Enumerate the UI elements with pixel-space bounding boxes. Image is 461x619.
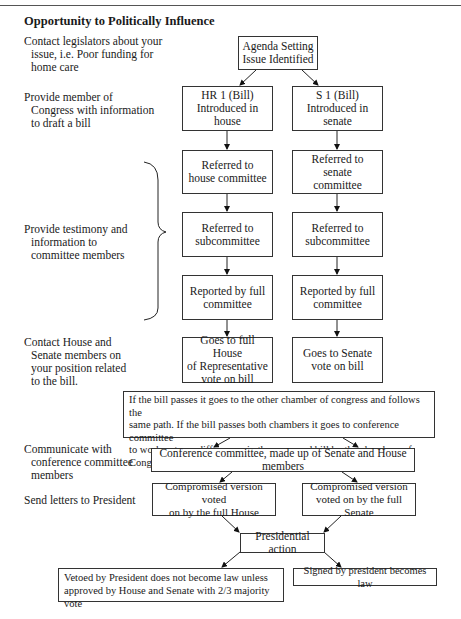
box-line: Conference committee, made up of Senate … — [155, 447, 411, 473]
box-line: Reported by full — [190, 285, 265, 298]
box-line: voted on by the full Senate — [306, 493, 412, 519]
box-line: HR 1 (Bill) — [201, 89, 253, 102]
box-line: Introduced in — [197, 102, 259, 115]
box-line: Referred to — [201, 222, 253, 235]
box-line: committee — [313, 298, 362, 311]
box-senate-introduced: S 1 (Bill) Introduced in senate — [292, 86, 383, 131]
box-compromise-house: Compromised version voted on by the full… — [152, 483, 276, 516]
box-vetoed: Vetoed by President does not become law … — [58, 568, 284, 602]
box-line: Reported by full — [300, 285, 375, 298]
brace-icon — [144, 162, 166, 320]
box-line: on by the full House — [169, 506, 259, 519]
box-line: Presidential action — [244, 530, 321, 556]
box-line: Signed by president becomes law — [297, 564, 433, 590]
box-line: Referred to — [201, 159, 253, 172]
box-line: of Representative — [187, 360, 268, 373]
box-line: house committee — [188, 172, 266, 185]
box-conference-committee: Conference committee, made up of Senate … — [151, 448, 415, 472]
box-line: Vetoed by President does not become law … — [64, 571, 268, 584]
box-senate-vote: Goes to Senate vote on bill — [292, 337, 383, 383]
box-line: senate — [323, 166, 352, 179]
box-line: S 1 (Bill) — [316, 89, 359, 102]
box-line: Referred to — [311, 222, 363, 235]
box-line: Goes to Senate — [303, 347, 372, 360]
box-line: Goes to full House — [186, 334, 269, 360]
box-senate-committee: Referred to senate committee — [292, 150, 383, 194]
box-house-introduced: HR 1 (Bill) Introduced in house — [182, 86, 273, 131]
box-compromise-senate: Compromised version voted on by the full… — [302, 483, 416, 516]
box-line: If the bill passes it goes to the other … — [129, 394, 429, 419]
box-line: subcommittee — [195, 235, 260, 248]
box-signed: Signed by president becomes law — [293, 568, 437, 586]
box-agenda-setting: Agenda Setting Issue Identified — [238, 36, 318, 70]
box-line: Introduced in — [307, 102, 369, 115]
box-presidential-action: Presidential action — [240, 533, 325, 553]
box-line: senate — [323, 115, 352, 128]
box-house-subcommittee: Referred to subcommittee — [182, 212, 273, 257]
box-line: Agenda Setting — [242, 40, 313, 53]
box-line: Compromised version — [310, 480, 407, 493]
box-house-vote: Goes to full House of Representative vot… — [182, 337, 273, 383]
box-house-committee: Referred to house committee — [182, 150, 273, 194]
box-house-reported: Reported by full committee — [182, 275, 273, 320]
box-line: committee — [313, 179, 362, 192]
box-line: same path. If the bill passes both chamb… — [129, 419, 429, 444]
box-line: subcommittee — [305, 235, 370, 248]
box-senate-subcommittee: Referred to subcommittee — [292, 212, 383, 257]
box-line: approved by House and Senate with 2/3 ma… — [64, 584, 278, 610]
box-line: Compromised version voted — [156, 480, 272, 506]
box-line: house — [214, 115, 241, 128]
box-passes-note: If the bill passes it goes to the other … — [123, 391, 435, 438]
box-line: vote on bill — [201, 373, 253, 386]
box-line: Referred to — [311, 153, 363, 166]
box-line: vote on bill — [311, 360, 363, 373]
box-line: Issue Identified — [242, 53, 313, 66]
box-senate-reported: Reported by full committee — [292, 275, 383, 320]
box-line: committee — [203, 298, 252, 311]
